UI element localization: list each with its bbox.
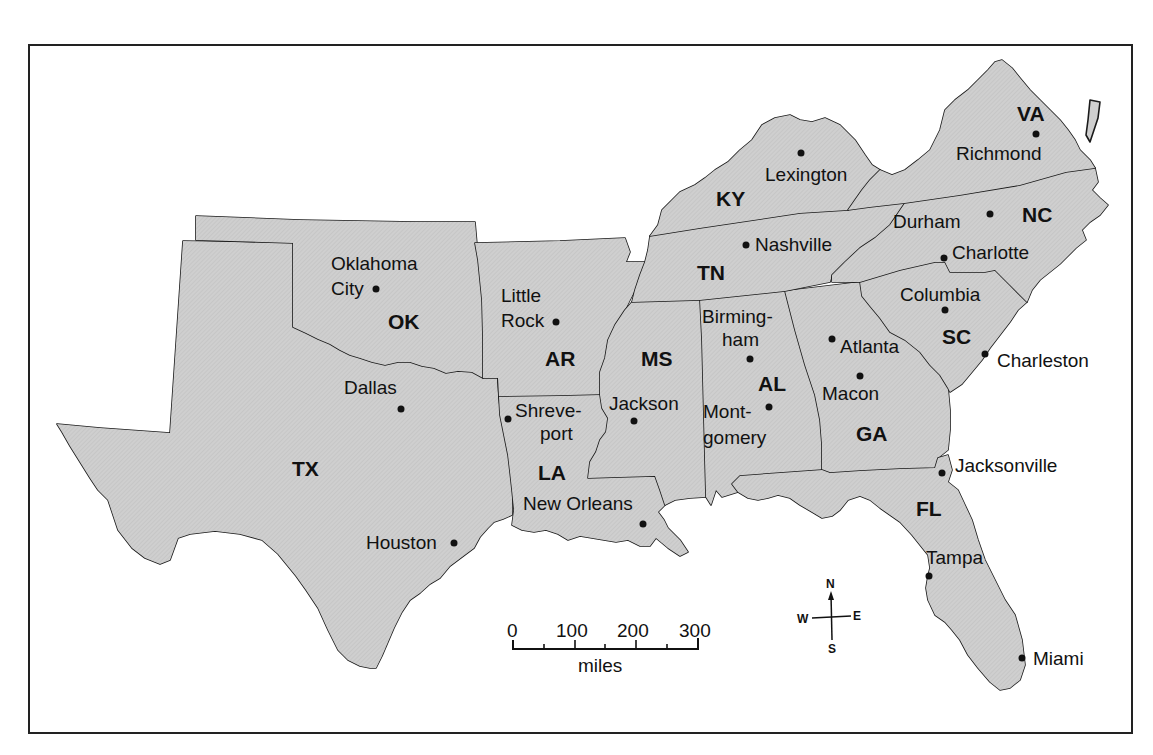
city-label-miami: Miami [1033,648,1084,669]
city-dot-montgomery[interactable] [766,404,773,411]
city-label-dallas: Dallas [344,377,397,398]
city-label-montgomery-line2: gomery [703,427,767,448]
city-label-oklahoma-city-line1: Oklahoma [331,253,418,274]
state-label-sc: SC [942,325,971,348]
city-label-tampa: Tampa [926,547,983,568]
city-dot-richmond[interactable] [1033,131,1040,138]
state-label-ga: GA [856,422,888,445]
city-label-lexington: Lexington [765,164,847,185]
city-label-montgomery-line1: Mont- [703,401,752,422]
city-dot-durham[interactable] [987,211,994,218]
city-label-nashville: Nashville [755,234,832,255]
city-label-little-rock-line2: Rock [501,310,545,331]
southeast-us-map: VA KY NC TN OK AR SC MS AL GA TX LA FL R… [0,0,1153,755]
state-label-la: LA [538,461,566,484]
city-dot-lexington[interactable] [798,150,805,157]
city-label-macon: Macon [822,383,879,404]
city-dot-houston[interactable] [451,540,458,547]
state-florida[interactable] [732,455,1025,690]
city-label-houston: Houston [366,532,437,553]
scale-tick-300: 300 [679,620,711,641]
city-dot-jacksonville[interactable] [939,470,946,477]
compass-east-label: E [853,609,861,623]
city-dot-dallas[interactable] [398,406,405,413]
compass-south-label: S [828,642,836,656]
city-dot-new-orleans[interactable] [640,521,647,528]
city-dot-birmingham[interactable] [747,356,754,363]
state-label-ok: OK [388,310,420,333]
city-dot-atlanta[interactable] [829,336,836,343]
scale-tick-200: 200 [617,620,649,641]
state-label-ms: MS [641,347,673,370]
city-label-oklahoma-city-line2: City [331,278,364,299]
scale-bar: 0 100 200 300 miles [507,620,711,676]
city-dot-charlotte[interactable] [941,255,948,262]
city-dot-nashville[interactable] [743,242,750,249]
state-label-va: VA [1017,102,1045,125]
north-arrow-icon [828,591,834,600]
compass-west-label: W [797,612,809,626]
delmarva-peninsula [1086,100,1100,142]
city-dot-little-rock[interactable] [553,319,560,326]
city-label-little-rock-line1: Little [501,285,541,306]
city-dot-jackson[interactable] [631,418,638,425]
state-label-fl: FL [916,497,942,520]
scale-unit-label: miles [578,655,622,676]
city-label-charleston: Charleston [997,350,1089,371]
city-dot-shreveport[interactable] [505,416,512,423]
compass-rose: N S E W [797,577,861,656]
city-label-shreveport-line2: port [540,423,573,444]
state-label-nc: NC [1022,203,1052,226]
city-dot-miami[interactable] [1019,655,1026,662]
city-label-charlotte: Charlotte [952,242,1029,263]
scale-tick-100: 100 [556,620,588,641]
city-label-jackson: Jackson [609,393,679,414]
city-dot-tampa[interactable] [926,573,933,580]
state-label-al: AL [758,372,786,395]
city-label-jacksonville: Jacksonville [955,455,1057,476]
state-label-tn: TN [697,261,725,284]
city-label-columbia: Columbia [900,284,981,305]
city-label-birmingham-line2: ham [722,329,759,350]
city-label-birmingham-line1: Birming- [702,306,773,327]
city-label-richmond: Richmond [956,143,1042,164]
city-dot-oklahoma-city[interactable] [373,286,380,293]
state-label-ar: AR [545,347,575,370]
city-label-shreveport-line1: Shreve- [515,400,582,421]
city-dot-charleston[interactable] [982,351,989,358]
city-dot-macon[interactable] [857,373,864,380]
state-label-tx: TX [292,457,319,480]
city-dot-columbia[interactable] [942,307,949,314]
city-label-durham: Durham [893,211,961,232]
city-label-new-orleans: New Orleans [523,493,633,514]
state-label-ky: KY [716,187,745,210]
city-label-atlanta: Atlanta [840,336,900,357]
scale-tick-0: 0 [507,620,518,641]
compass-north-label: N [826,577,835,591]
